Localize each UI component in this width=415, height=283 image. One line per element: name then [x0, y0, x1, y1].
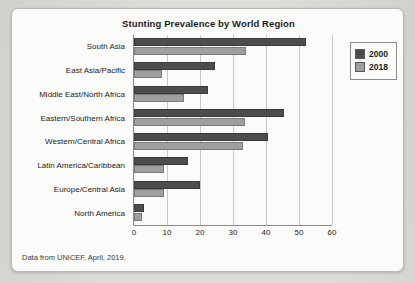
- bar-group: [134, 130, 332, 154]
- bar-group: [134, 83, 332, 107]
- bar-2000: [134, 38, 306, 46]
- bar-group: [134, 59, 332, 83]
- chart-title: Stunting Prevalence by World Region: [12, 18, 404, 29]
- y-tick-label: Middle East/North Africa: [12, 83, 130, 107]
- bar-2018: [134, 118, 245, 126]
- bar-2000: [134, 157, 188, 165]
- y-axis-category-labels: South AsiaEast Asia/PacificMiddle East/N…: [12, 35, 130, 225]
- bar-2018: [134, 165, 164, 173]
- legend-label: 2018: [369, 62, 388, 72]
- y-tick-label: Latin America/Caribbean: [12, 154, 130, 178]
- y-tick-label: Europe/Central Asia: [12, 178, 130, 202]
- bar-group: [134, 35, 332, 59]
- x-tick-label: 30: [229, 228, 238, 237]
- legend-swatch-icon: [355, 62, 365, 72]
- bar-2018: [134, 213, 142, 221]
- bar-2018: [134, 94, 184, 102]
- x-tick-label: 20: [196, 228, 205, 237]
- legend-item-2018: 2018: [355, 62, 393, 72]
- bar-2018: [134, 47, 246, 55]
- source-footnote: Data from UNICEF, April, 2019.: [22, 253, 126, 262]
- bar-2000: [134, 181, 200, 189]
- y-tick-label: North America: [12, 201, 130, 225]
- bar-group: [134, 154, 332, 178]
- bar-group: [134, 201, 332, 225]
- x-tick-label: 40: [262, 228, 271, 237]
- chart-legend: 20002018: [350, 42, 397, 80]
- legend-item-2000: 2000: [355, 49, 393, 59]
- x-tick-label: 10: [163, 228, 172, 237]
- x-tick-label: 60: [328, 228, 337, 237]
- legend-label: 2000: [369, 49, 388, 59]
- bar-2000: [134, 133, 268, 141]
- x-tick-label: 0: [132, 228, 136, 237]
- bar-2018: [134, 189, 164, 197]
- bar-2018: [134, 142, 243, 150]
- x-axis-line: [133, 225, 332, 226]
- bar-2000: [134, 204, 144, 212]
- bar-2000: [134, 109, 284, 117]
- y-tick-label: Western/Central Africa: [12, 130, 130, 154]
- y-tick-label: South Asia: [12, 35, 130, 59]
- x-axis-tick-labels: 0102030405060: [134, 228, 332, 242]
- bar-2018: [134, 70, 162, 78]
- bar-2000: [134, 86, 208, 94]
- bar-group: [134, 178, 332, 202]
- gridline-60: [332, 35, 333, 225]
- bar-2000: [134, 62, 215, 70]
- y-tick-label: East Asia/Pacific: [12, 59, 130, 83]
- legend-swatch-icon: [355, 49, 365, 59]
- chart-figure-card: Stunting Prevalence by World Region Sout…: [11, 8, 404, 272]
- y-tick-label: Eastern/Southern Africa: [12, 106, 130, 130]
- bar-group: [134, 106, 332, 130]
- scanned-page-background: Stunting Prevalence by World Region Sout…: [0, 0, 415, 283]
- plot-area: [134, 35, 332, 225]
- x-tick-label: 50: [295, 228, 304, 237]
